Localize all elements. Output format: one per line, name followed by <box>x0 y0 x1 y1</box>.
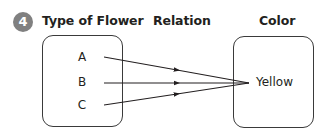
arrow-c-to-yellow <box>104 83 249 105</box>
mapping-arrows <box>0 0 326 135</box>
arrow-a-to-yellow <box>104 57 249 83</box>
